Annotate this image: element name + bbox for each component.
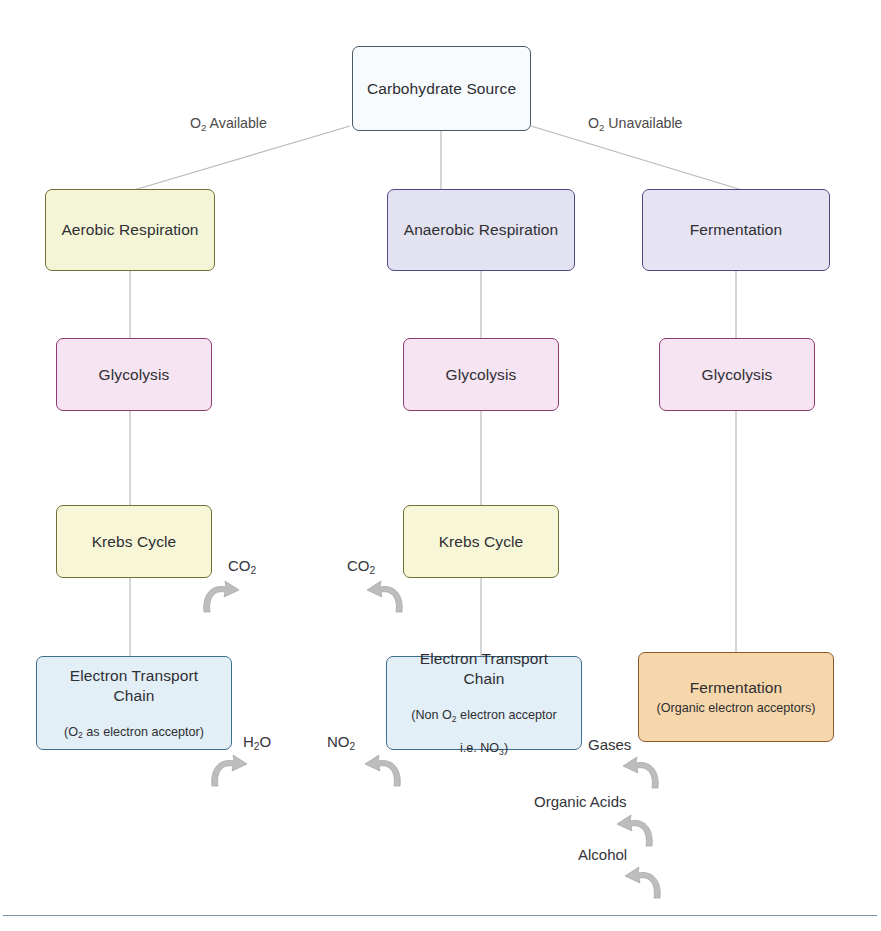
node-krebs-aerobic-title: Krebs Cycle — [92, 532, 177, 552]
edge-label-oxygen-available: O2 Available — [190, 115, 267, 131]
node-etc-anaerobic[interactable]: Electron Transport Chain (Non O2 electro… — [386, 656, 582, 750]
respiration-pathway-diagram: Carbohydrate Source O2 Available O2 Unav… — [0, 0, 881, 931]
node-aerobic-respiration-title: Aerobic Respiration — [61, 220, 198, 240]
oxygen-unavailable-prefix: O — [588, 115, 599, 131]
nitrite-prefix: NO — [327, 733, 350, 750]
node-glycolysis-anaerobic-title: Glycolysis — [446, 365, 517, 385]
node-glycolysis-anaerobic[interactable]: Glycolysis — [403, 338, 559, 411]
co2-anaerobic-arrow-icon — [362, 578, 408, 618]
etc-aerobic-subtitle-prefix: (O — [64, 725, 78, 739]
node-fermentation-pathway-title: Fermentation — [690, 220, 783, 240]
node-carbohydrate-source[interactable]: Carbohydrate Source — [352, 46, 531, 131]
node-krebs-anaerobic[interactable]: Krebs Cycle — [403, 505, 559, 578]
edge-carbohydrate-to-aerobic — [134, 126, 350, 190]
node-aerobic-respiration[interactable]: Aerobic Respiration — [45, 189, 215, 271]
node-glycolysis-fermentation-title: Glycolysis — [702, 365, 773, 385]
node-anaerobic-respiration-title: Anaerobic Respiration — [404, 220, 559, 240]
node-fermentation-products[interactable]: Fermentation (Organic electron acceptors… — [638, 652, 834, 742]
gases-arrow-icon — [618, 754, 664, 794]
edge-carbohydrate-to-fermentation — [531, 126, 742, 190]
water-suffix: O — [260, 733, 272, 750]
edge-label-oxygen-unavailable: O2 Unavailable — [588, 115, 683, 131]
etc-anaerobic-subtitle-line1-prefix: (Non O — [411, 708, 452, 722]
co2-anaerobic-sub: 2 — [370, 565, 376, 576]
node-fermentation-products-title: Fermentation — [690, 678, 783, 698]
alcohol-arrow-icon — [620, 864, 666, 904]
water-arrow-icon — [206, 752, 252, 792]
product-label-gases: Gases — [588, 736, 631, 753]
node-etc-anaerobic-subtitle: (Non O2 electron acceptor i.e. NO3) — [411, 691, 556, 756]
footer-divider — [3, 915, 877, 916]
product-label-co2-anaerobic: CO2 — [347, 557, 375, 574]
etc-anaerobic-subtitle-line2-suffix: ) — [504, 741, 508, 755]
product-label-water: H2O — [243, 733, 271, 750]
product-label-nitrite: NO2 — [327, 733, 355, 750]
etc-anaerobic-subtitle-line1-suffix: electron acceptor — [457, 708, 557, 722]
node-fermentation-products-subtitle: (Organic electron acceptors) — [657, 700, 816, 716]
node-etc-aerobic-title: Electron Transport Chain — [70, 666, 198, 706]
co2-aerobic-sub: 2 — [251, 565, 257, 576]
node-krebs-aerobic[interactable]: Krebs Cycle — [56, 505, 212, 578]
etc-aerobic-subtitle-suffix: as electron acceptor) — [83, 725, 204, 739]
connector-layer — [0, 0, 881, 931]
node-etc-aerobic-subtitle: (O2 as electron acceptor) — [64, 707, 204, 740]
node-krebs-anaerobic-title: Krebs Cycle — [439, 532, 524, 552]
product-label-co2-aerobic: CO2 — [228, 557, 256, 574]
etc-anaerobic-subtitle-line2-prefix: i.e. NO — [460, 741, 499, 755]
oxygen-unavailable-suffix: Unavailable — [604, 115, 682, 131]
co2-aerobic-prefix: CO — [228, 557, 251, 574]
co2-anaerobic-prefix: CO — [347, 557, 370, 574]
node-glycolysis-fermentation[interactable]: Glycolysis — [659, 338, 815, 411]
water-prefix: H — [243, 733, 254, 750]
node-etc-anaerobic-title: Electron Transport Chain — [420, 649, 548, 689]
oxygen-available-sub: 2 — [201, 122, 206, 133]
nitrite-sub: 2 — [350, 741, 356, 752]
node-etc-aerobic[interactable]: Electron Transport Chain (O2 as electron… — [36, 656, 232, 750]
oxygen-available-suffix: Available — [206, 115, 266, 131]
etc-aerobic-subtitle-sub: 2 — [78, 730, 83, 740]
etc-anaerobic-subtitle-line2-sub: 3 — [499, 747, 504, 757]
etc-anaerobic-subtitle-line1-sub: 2 — [452, 714, 457, 724]
product-label-alcohol: Alcohol — [578, 846, 627, 863]
node-fermentation-pathway[interactable]: Fermentation — [642, 189, 830, 271]
node-glycolysis-aerobic[interactable]: Glycolysis — [56, 338, 212, 411]
water-sub: 2 — [254, 741, 260, 752]
oxygen-unavailable-sub: 2 — [599, 122, 604, 133]
node-carbohydrate-source-title: Carbohydrate Source — [367, 79, 516, 99]
co2-aerobic-arrow-icon — [198, 578, 244, 618]
nitrite-arrow-icon — [360, 752, 406, 792]
node-anaerobic-respiration[interactable]: Anaerobic Respiration — [387, 189, 575, 271]
node-glycolysis-aerobic-title: Glycolysis — [99, 365, 170, 385]
oxygen-available-prefix: O — [190, 115, 201, 131]
product-label-organic-acids: Organic Acids — [534, 793, 627, 810]
